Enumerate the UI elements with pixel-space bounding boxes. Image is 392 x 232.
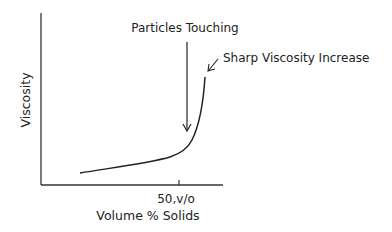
viscosity-chart: Particles Touching Sharp Viscosity Incre…	[0, 0, 392, 232]
x-tick-label-50: 50,v/o	[157, 192, 195, 206]
sharp-increase-arrow	[209, 59, 218, 70]
x-axis-label: Volume % Solids	[96, 208, 199, 223]
annotation-particles-touching: Particles Touching	[131, 21, 238, 35]
y-axis-label: Viscosity	[18, 72, 33, 128]
viscosity-curve	[80, 77, 205, 173]
annotation-sharp-viscosity-increase: Sharp Viscosity Increase	[223, 51, 369, 65]
